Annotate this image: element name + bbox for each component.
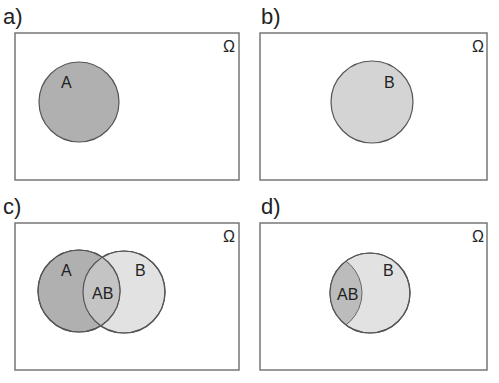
intersection-label: AB — [92, 285, 113, 302]
panel-b: b) Ω B — [260, 4, 487, 180]
omega-label: Ω — [472, 38, 484, 55]
panel-label-b: b) — [261, 4, 281, 29]
set-a-label: A — [61, 74, 72, 91]
panel-a: a) Ω A — [3, 4, 239, 180]
panel-c: c) Ω A AB B — [3, 194, 239, 370]
omega-label: Ω — [223, 38, 235, 55]
intersection-label: AB — [337, 286, 358, 303]
omega-label: Ω — [472, 228, 484, 245]
panel-d: d) Ω AB B — [260, 194, 487, 370]
set-b-label: B — [384, 74, 395, 91]
panel-label-a: a) — [3, 4, 23, 29]
omega-label: Ω — [223, 228, 235, 245]
panel-label-c: c) — [3, 194, 21, 219]
set-b-circle — [331, 61, 413, 143]
set-a-label: A — [61, 262, 72, 279]
panel-label-d: d) — [261, 194, 281, 219]
set-a-circle — [39, 62, 119, 142]
set-b-label: B — [135, 262, 146, 279]
set-b-label: B — [383, 262, 394, 279]
